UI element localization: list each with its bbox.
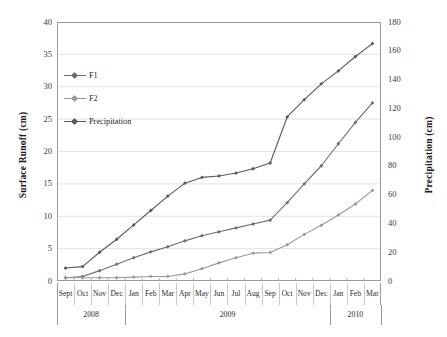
data-point [268,251,272,255]
data-point [183,272,187,276]
plot-area [57,22,381,281]
x-axis-year-label: 2009 [125,305,330,325]
data-point [200,176,204,180]
data-point [251,251,255,255]
year-separator [381,305,382,325]
data-point [166,275,170,279]
data-point [149,250,153,254]
y-right-tick-label: 120 [388,103,414,113]
data-point [234,256,238,260]
x-axis-month-label: Jan [330,283,347,305]
x-axis-month-label: Mar [159,283,176,305]
x-axis-month-label: Oct [279,283,296,305]
x-axis-month-labels: SeptOctNovDecJanFebMarAprMayJunJulAugSep… [57,283,381,305]
data-point [268,161,272,165]
legend-marker-icon [64,117,86,127]
legend-label: Precipitation [89,117,131,126]
y-left-tick-label: 40 [26,17,52,27]
data-point [115,262,119,266]
x-axis-end-rule [380,283,381,305]
legend-label: F2 [89,94,98,103]
y-right-tick-label: 60 [388,189,414,199]
x-axis-month-label: Sept [57,283,74,305]
year-separator [125,305,126,325]
legend-marker-icon [64,94,86,104]
data-point [166,245,170,249]
x-axis-month-label: Feb [142,283,159,305]
x-axis-month-label: Jul [227,283,244,305]
x-axis-month-label: Mar [364,283,381,305]
y-left-tick-label: 30 [26,81,52,91]
y-right-tick-label: 180 [388,17,414,27]
data-point [115,276,119,280]
y-left-tick-label: 0 [26,276,52,286]
data-point [200,267,204,271]
x-axis-month-label: May [193,283,210,305]
x-axis-year-label: 2008 [57,305,125,325]
year-separator [330,305,331,325]
x-axis-month-label: Jun [210,283,227,305]
data-point [234,171,238,175]
x-axis-month-label: Dec [108,283,125,305]
data-point [132,275,136,279]
y-right-tick-label: 40 [388,218,414,228]
y-left-tick-label: 20 [26,146,52,156]
x-axis-month-label: Aug [245,283,262,305]
data-point [132,256,136,260]
y-right-tick-label: 80 [388,160,414,170]
y-left-tick-label: 5 [26,243,52,253]
data-point [217,261,221,265]
plot-svg [57,22,381,281]
data-point [251,167,255,171]
y-right-tick-label: 140 [388,74,414,84]
series-f2 [64,188,375,279]
x-axis-month-label: Nov [296,283,313,305]
legend-item-f2: F2 [64,87,131,110]
x-axis-month-label: Dec [313,283,330,305]
data-point [217,174,221,178]
x-axis-month-label: Feb [347,283,364,305]
x-axis-month-label: Apr [176,283,193,305]
x-axis-month-label: Nov [91,283,108,305]
x-axis-year-label: 2010 [330,305,381,325]
chart-figure: Surface Runoff (cm) Precipitation (cm) 0… [0,0,447,337]
data-point [251,222,255,226]
y-right-tick-label: 100 [388,132,414,142]
legend-label: F1 [89,71,98,80]
data-point [98,269,102,273]
data-point [200,234,204,238]
data-point [217,230,221,234]
data-point [234,226,238,230]
x-axis-month-label: Sep [262,283,279,305]
legend-marker-icon [64,71,86,81]
legend-item-precipitation: Precipitation [64,110,131,133]
y-right-tick-label: 20 [388,247,414,257]
y-left-tick-label: 25 [26,114,52,124]
year-separator [57,305,58,325]
data-point [183,239,187,243]
data-point [64,266,68,270]
x-axis-month-label: Jan [125,283,142,305]
y-left-tick-label: 35 [26,49,52,59]
data-point [64,276,68,280]
legend-item-f1: F1 [64,64,131,87]
data-point [149,275,153,279]
legend: F1F2Precipitation [64,64,131,133]
y-axis-right-title: Precipitation (cm) [424,85,434,225]
y-left-tick-label: 15 [26,178,52,188]
x-axis-month-label: Oct [74,283,91,305]
y-right-tick-label: 160 [388,45,414,55]
x-axis-year-labels: 200820092010 [57,305,381,325]
y-right-tick-label: 0 [388,276,414,286]
data-point [98,276,102,280]
y-left-tick-label: 10 [26,211,52,221]
